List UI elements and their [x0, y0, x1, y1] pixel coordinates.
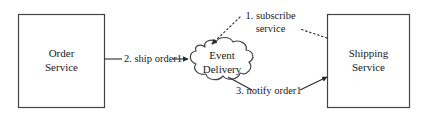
edge-notify-order-label-line1: 3. notify order1 — [236, 84, 302, 97]
diagram-canvas: Order Service Event Delivery Shipping Se… — [0, 0, 421, 117]
node-shipping-service-shape — [328, 15, 410, 108]
diagram-graphics — [0, 0, 421, 117]
edge-ship-order-label: 2. ship order1 — [124, 52, 182, 65]
node-order-service-shape — [19, 15, 105, 108]
edge-ship-order-label-line1: 2. ship order1 — [124, 52, 182, 65]
edge-notify-order-label: 3. notify order1 — [236, 84, 302, 97]
node-event-delivery-shape — [190, 38, 252, 80]
edge-subscribe-label: 1. subscribe service — [233, 9, 308, 35]
edge-notify-line-right — [300, 77, 327, 90]
edge-subscribe-label-line2: service — [233, 22, 308, 35]
edge-subscribe-label-line1: 1. subscribe — [233, 9, 308, 22]
